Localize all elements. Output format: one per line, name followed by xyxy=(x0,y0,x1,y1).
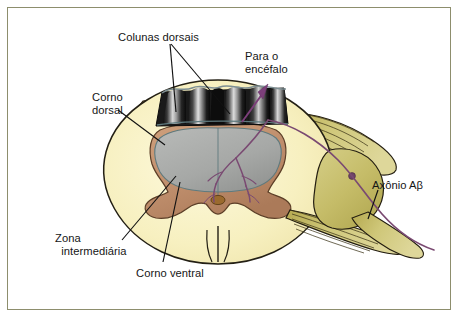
label-para-o-encefalo: Para o encéfalo xyxy=(245,50,288,76)
label-axonio-ab: Axônio Aβ xyxy=(372,179,423,192)
spinal-cord-diagram xyxy=(0,0,459,318)
spinal-cord-gray-matter xyxy=(145,123,291,218)
label-colunas-dorsais: Colunas dorsais xyxy=(118,31,199,44)
label-corno-ventral: Corno ventral xyxy=(136,267,204,280)
label-corno-dorsal: Corno dorsal xyxy=(92,91,123,117)
label-zona-intermediaria: Zona intermediária xyxy=(55,232,127,258)
figure-root: Colunas dorsais Para o encéfalo Corno do… xyxy=(0,0,459,318)
